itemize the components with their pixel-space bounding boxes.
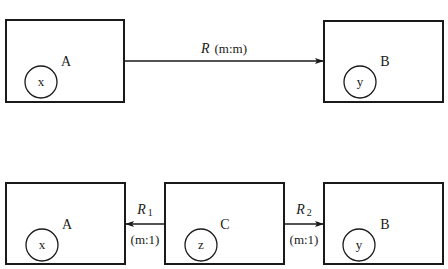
bottom-entity-b: B y bbox=[324, 183, 443, 264]
entity-label: A bbox=[61, 54, 72, 69]
relationship-label: R1 bbox=[136, 202, 153, 218]
attribute-label: y bbox=[356, 237, 363, 252]
entity-label: B bbox=[380, 217, 389, 232]
relationship-label: R(m:m) bbox=[200, 41, 247, 56]
bottom-relationship-r2: R2 (m:1) bbox=[284, 202, 324, 247]
relationship-subscript: 1 bbox=[148, 207, 153, 218]
relationship-name: R bbox=[295, 202, 305, 217]
relationship-subscript: 2 bbox=[307, 207, 312, 218]
bottom-entity-a: A x bbox=[6, 183, 125, 264]
er-decomposition-diagram: A x R(m:m) B y A x R1 (m:1) C z R2 (m:1) bbox=[0, 0, 448, 269]
relationship-name: R bbox=[136, 202, 146, 217]
relationship-label: R2 bbox=[295, 202, 312, 218]
attribute-label: x bbox=[38, 74, 45, 89]
attribute-label: z bbox=[198, 237, 204, 252]
attribute-label: y bbox=[357, 74, 364, 89]
top-entity-b: B y bbox=[324, 21, 443, 102]
top-relationship-r: R(m:m) bbox=[124, 41, 324, 61]
relationship-cardinality: (m:1) bbox=[131, 232, 160, 247]
entity-label: B bbox=[380, 54, 389, 69]
relationship-cardinality: (m:1) bbox=[290, 232, 319, 247]
relationship-cardinality: (m:m) bbox=[215, 41, 248, 56]
attribute-label: x bbox=[39, 237, 46, 252]
entity-label: A bbox=[62, 217, 73, 232]
bottom-relationship-r1: R1 (m:1) bbox=[125, 202, 165, 247]
relationship-name: R bbox=[200, 41, 210, 56]
bottom-entity-c: C z bbox=[165, 183, 284, 264]
entity-label: C bbox=[220, 217, 229, 232]
top-entity-a: A x bbox=[6, 20, 124, 102]
